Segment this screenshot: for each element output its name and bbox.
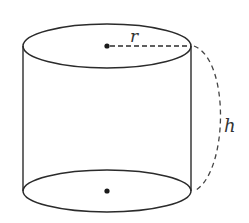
cylinder-diagram: r h	[0, 0, 249, 223]
bottom-center-point	[104, 188, 109, 193]
height-dashed-arc	[194, 46, 221, 190]
cylinder-figure: r h	[0, 0, 249, 223]
radius-label: r	[130, 26, 139, 46]
height-label: h	[224, 115, 236, 136]
top-center-point	[104, 43, 109, 48]
